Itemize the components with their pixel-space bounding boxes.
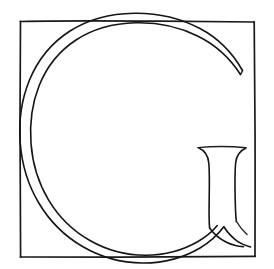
frame-bottom-edge — [21, 256, 255, 257]
paper-background — [0, 0, 274, 269]
frame-right-edge — [254, 22, 255, 256]
frame-top-edge — [21, 21, 255, 22]
artboard: Outline drawing of a serif capital lette… — [0, 0, 274, 269]
letter-g-drawing — [0, 0, 274, 269]
